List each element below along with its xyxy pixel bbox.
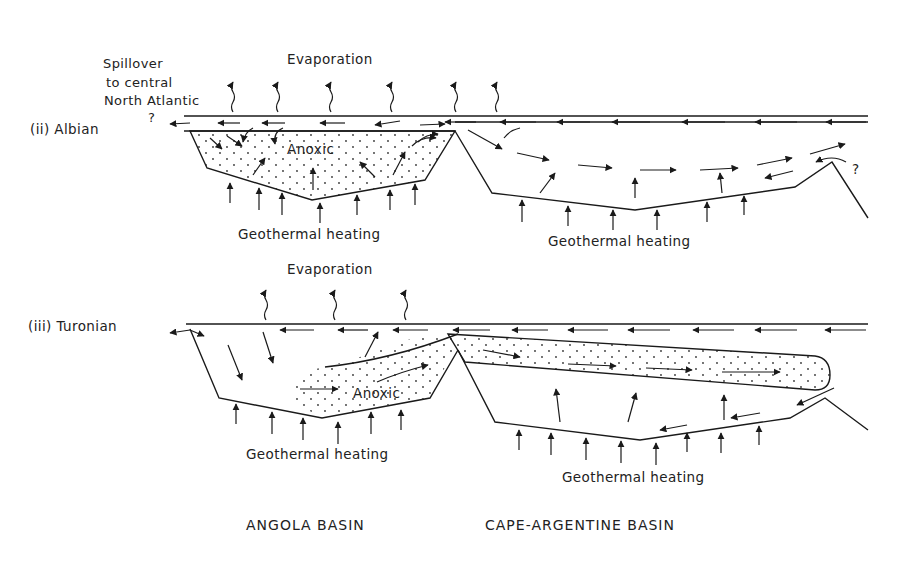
turonian-heating-left-label: Geothermal heating bbox=[246, 446, 388, 462]
albian-heating-left-label: Geothermal heating bbox=[238, 226, 380, 242]
turonian-evaporation-arrows bbox=[265, 290, 408, 320]
albian-anoxic-label: Anoxic bbox=[287, 141, 334, 157]
turonian-anoxic-tongue bbox=[448, 334, 830, 390]
turonian-angola-anoxic-fill bbox=[290, 337, 458, 418]
turonian-evaporation-label: Evaporation bbox=[287, 261, 373, 277]
spillover-label-line-1: Spillover bbox=[103, 56, 163, 71]
turonian-anoxic-label: Anoxic bbox=[353, 385, 400, 401]
turonian-cape-interior-arrows bbox=[556, 388, 834, 430]
turonian-panel-label: (iii) Turonian bbox=[28, 318, 117, 334]
spillover-label-line-2: to central bbox=[106, 75, 173, 90]
turonian-surface-flow-arrows bbox=[170, 330, 866, 336]
albian-evaporation-label: Evaporation bbox=[287, 51, 373, 67]
angola-basin-label: ANGOLA BASIN bbox=[246, 517, 365, 533]
albian-panel-label: (ii) Albian bbox=[30, 121, 99, 137]
turonian-heating-right-label: Geothermal heating bbox=[562, 469, 704, 485]
cape-argentine-basin-label: CAPE-ARGENTINE BASIN bbox=[485, 517, 675, 533]
spillover-question-mark: ? bbox=[148, 110, 155, 125]
spillover-label-line-3: North Atlantic bbox=[104, 93, 200, 108]
albian-heating-right-label: Geothermal heating bbox=[548, 233, 690, 249]
turonian-panel bbox=[170, 290, 868, 465]
albian-surface-flow-arrows bbox=[170, 121, 866, 125]
albian-cape-basin-floor bbox=[455, 131, 868, 218]
albian-right-question-mark: ? bbox=[852, 161, 860, 177]
albian-evaporation-arrows bbox=[232, 82, 499, 112]
albian-panel bbox=[170, 82, 868, 230]
